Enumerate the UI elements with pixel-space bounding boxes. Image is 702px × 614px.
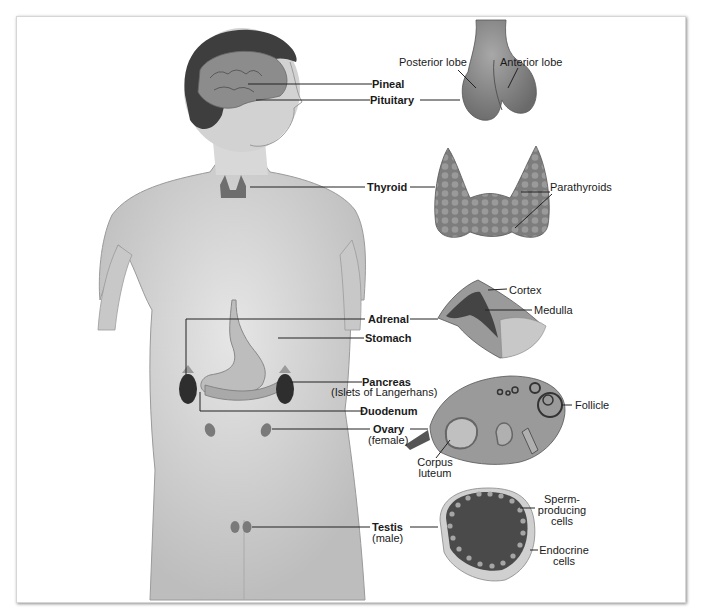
pituitary-detail <box>458 20 536 120</box>
label-anterior-lobe: Anterior lobe <box>500 56 562 68</box>
body-figure <box>92 28 365 600</box>
label-luteum: luteum <box>410 467 460 479</box>
label-stomach: Stomach <box>365 332 411 344</box>
endocrine-illustration <box>0 0 702 614</box>
label-cortex: Cortex <box>509 284 541 296</box>
label-female: (female) <box>368 434 408 446</box>
label-pituitary: Pituitary <box>370 94 414 106</box>
label-pineal: Pineal <box>372 78 404 90</box>
label-thyroid: Thyroid <box>367 181 407 193</box>
label-medulla: Medulla <box>534 304 573 316</box>
label-adrenal: Adrenal <box>368 313 409 325</box>
label-sperm-cells: cells <box>534 515 590 527</box>
label-parathyroids: Parathyroids <box>550 181 612 193</box>
label-endocrine-cells: cells <box>534 555 594 567</box>
label-islets-of-langerhans: (Islets of Langerhans) <box>331 386 437 398</box>
label-follicle: Follicle <box>575 399 609 411</box>
thyroid-detail <box>435 146 552 237</box>
label-duodenum: Duodenum <box>360 405 417 417</box>
label-male: (male) <box>372 532 403 544</box>
label-posterior-lobe: Posterior lobe <box>399 56 467 68</box>
testis-detail <box>440 488 538 581</box>
